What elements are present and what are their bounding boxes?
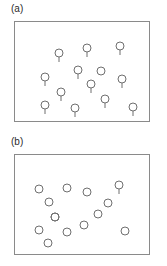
panel-a-label: (a) — [11, 3, 23, 15]
marker-circle-icon — [51, 213, 59, 221]
marker-a-2 — [55, 49, 63, 62]
marker-a-9 — [101, 95, 109, 108]
panel-b-plot-area — [14, 154, 150, 255]
marker-a-5 — [74, 66, 82, 79]
panel-b-markers — [15, 155, 149, 254]
marker-b-12 — [121, 227, 129, 235]
panel-b-label: (b) — [11, 136, 23, 148]
marker-circle-icon — [35, 185, 43, 193]
marker-a-11 — [118, 75, 126, 88]
marker-circle-icon — [129, 103, 137, 111]
marker-circle-icon — [97, 67, 105, 75]
marker-circle-icon — [80, 221, 88, 229]
marker-b-0 — [35, 185, 43, 193]
marker-circle-icon — [83, 44, 91, 52]
marker-circle-icon — [63, 184, 71, 192]
marker-a-12 — [129, 103, 137, 116]
marker-a-10 — [116, 42, 124, 55]
marker-circle-icon — [55, 49, 63, 57]
marker-b-11 — [115, 181, 123, 194]
marker-b-7 — [80, 221, 88, 229]
marker-circle-icon — [115, 181, 123, 189]
marker-circle-icon — [41, 101, 49, 109]
marker-circle-icon — [104, 199, 112, 207]
marker-circle-icon — [45, 198, 53, 206]
marker-circle-icon — [74, 66, 82, 74]
marker-b-13 — [51, 213, 59, 221]
marker-circle-icon — [44, 239, 52, 247]
marker-a-8 — [97, 67, 105, 75]
marker-circle-icon — [101, 95, 109, 103]
panel-a-plot-area — [14, 21, 150, 122]
marker-a-3 — [57, 88, 65, 101]
marker-a-7 — [87, 80, 95, 93]
marker-circle-icon — [83, 188, 91, 196]
marker-circle-icon — [121, 227, 129, 235]
marker-circle-icon — [94, 210, 102, 218]
marker-b-8 — [83, 188, 91, 196]
marker-b-1 — [45, 198, 53, 206]
marker-b-6 — [63, 228, 71, 236]
marker-circle-icon — [118, 75, 126, 83]
marker-circle-icon — [63, 228, 71, 236]
two-panel-figure: (a) (b) — [0, 0, 167, 266]
marker-circle-icon — [41, 73, 49, 81]
marker-b-5 — [63, 184, 71, 192]
marker-b-10 — [104, 199, 112, 207]
marker-b-3 — [44, 239, 52, 247]
marker-circle-icon — [116, 42, 124, 50]
marker-a-1 — [41, 101, 49, 114]
marker-a-6 — [83, 44, 91, 57]
panel-a-markers — [15, 22, 149, 121]
marker-a-0 — [41, 73, 49, 86]
marker-b-9 — [94, 210, 102, 218]
marker-circle-icon — [35, 226, 43, 234]
panel-a: (a) — [0, 0, 167, 133]
marker-circle-icon — [71, 104, 79, 112]
marker-a-4 — [71, 104, 79, 117]
marker-circle-icon — [87, 80, 95, 88]
marker-b-2 — [35, 226, 43, 234]
marker-circle-icon — [57, 88, 65, 96]
panel-b: (b) — [0, 133, 167, 266]
